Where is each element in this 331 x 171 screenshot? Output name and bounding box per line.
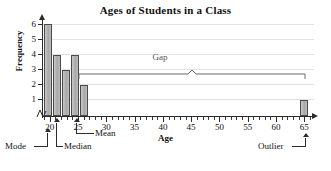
x-tick-minor-53 (236, 117, 237, 120)
y-tick-4 (38, 54, 42, 55)
x-tick-minor-63 (293, 117, 294, 120)
x-tick-minor-47 (203, 117, 204, 120)
y-tick-label-2: 2 (22, 80, 36, 89)
x-tick-minor-29 (101, 117, 102, 120)
bar-age-65 (300, 100, 308, 116)
x-tick-minor-31 (112, 117, 113, 120)
mode-leader-vertical (47, 133, 48, 146)
x-tick-minor-22 (61, 117, 62, 120)
gridline-6 (42, 24, 314, 25)
y-axis-title: Frequency (14, 14, 24, 88)
mean-leader-vertical (76, 123, 77, 133)
x-tick-label-45: 45 (181, 123, 201, 132)
x-tick-minor-66 (310, 117, 311, 120)
x-tick-minor-64 (299, 117, 300, 120)
axis-break-icon (36, 108, 48, 118)
x-tick-minor-27 (89, 117, 90, 120)
y-tick-label-6: 6 (22, 20, 36, 29)
bar-age-23 (71, 55, 79, 116)
x-tick-minor-32 (118, 117, 119, 120)
mode-label: Mode (5, 141, 26, 151)
x-tick-label-25: 25 (68, 123, 88, 132)
x-tick-minor-58 (265, 117, 266, 120)
x-tick-minor-62 (287, 117, 288, 120)
chart-container: Ages of Students in a Class 6 5 4 3 2 1 … (0, 0, 331, 171)
x-tick-minor-51 (225, 117, 226, 120)
x-tick-minor-56 (253, 117, 254, 120)
bar-age-22 (62, 70, 70, 116)
x-tick-minor-28 (95, 117, 96, 120)
median-leader-vertical (56, 123, 57, 146)
x-tick-minor-36 (140, 117, 141, 120)
x-tick-label-35: 35 (125, 123, 145, 132)
x-tick-minor-48 (208, 117, 209, 120)
x-tick-label-55: 55 (238, 123, 258, 132)
y-tick-1 (38, 99, 42, 100)
x-tick-minor-37 (146, 117, 147, 120)
x-tick-minor-39 (157, 117, 158, 120)
x-tick-label-65: 65 (294, 123, 314, 132)
mean-caret-icon (74, 118, 80, 122)
x-tick-minor-41 (169, 117, 170, 120)
x-tick-minor-46 (197, 117, 198, 120)
y-axis-line (42, 20, 43, 118)
outlier-label: Outlier (258, 141, 284, 151)
x-tick-minor-42 (174, 117, 175, 120)
x-tick-minor-19 (44, 117, 45, 120)
y-tick-2 (38, 84, 42, 85)
y-tick-3 (38, 69, 42, 70)
x-tick-minor-33 (123, 117, 124, 120)
median-caret-icon (54, 118, 60, 122)
y-tick-label-4: 4 (22, 50, 36, 59)
outlier-leader-vertical (305, 138, 306, 146)
mean-label: Mean (95, 128, 116, 138)
x-tick-minor-44 (186, 117, 187, 120)
x-tick-minor-54 (242, 117, 243, 120)
x-tick-label-50: 50 (209, 123, 229, 132)
x-tick-minor-23 (67, 117, 68, 120)
gap-bracket (78, 70, 306, 80)
mean-leader-horizontal (76, 133, 94, 134)
gridline-5 (42, 39, 314, 40)
x-tick-label-40: 40 (153, 123, 173, 132)
bar-age-24 (80, 85, 88, 116)
outlier-caret-icon (303, 133, 309, 137)
bar-age-21 (53, 55, 61, 116)
x-tick-minor-59 (270, 117, 271, 120)
outlier-leader-horizontal (292, 146, 306, 147)
x-tick-minor-38 (152, 117, 153, 120)
y-tick-label-1: 1 (22, 95, 36, 104)
x-tick-minor-52 (231, 117, 232, 120)
y-tick-6 (38, 24, 42, 25)
x-tick-minor-49 (214, 117, 215, 120)
gap-label: Gap (130, 52, 190, 62)
mode-caret-icon (45, 128, 51, 132)
median-label: Median (64, 141, 92, 151)
bar-age-20 (44, 24, 52, 116)
x-tick-minor-61 (282, 117, 283, 120)
y-tick-label-3: 3 (22, 65, 36, 74)
x-tick-label-60: 60 (266, 123, 286, 132)
y-tick-label-5: 5 (22, 35, 36, 44)
median-leader-horizontal (56, 146, 63, 147)
x-axis-arrow (312, 113, 318, 119)
mode-leader-horizontal (34, 146, 48, 147)
x-tick-minor-26 (84, 117, 85, 120)
x-tick-minor-57 (259, 117, 260, 120)
x-tick-minor-43 (180, 117, 181, 120)
y-tick-5 (38, 39, 42, 40)
chart-title: Ages of Students in a Class (0, 4, 331, 16)
x-tick-minor-34 (129, 117, 130, 120)
